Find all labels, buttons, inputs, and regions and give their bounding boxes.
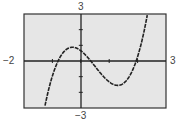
graph-plot — [0, 0, 182, 123]
xmax-label: 3 — [170, 56, 176, 66]
xmin-label: −2 — [3, 56, 14, 66]
ymax-label: 3 — [78, 2, 84, 12]
ymin-label: −3 — [75, 111, 86, 121]
